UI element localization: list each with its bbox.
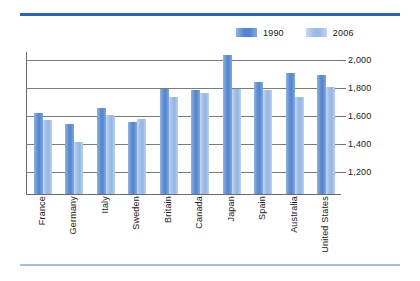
y-axis-tick-label: 1,200 [348, 167, 372, 177]
y-axis-tick-label: 1,600 [348, 111, 372, 121]
y-axis-tick [341, 88, 346, 89]
y-axis-tick-label: 2,000 [348, 55, 372, 65]
bar-2006 [263, 90, 272, 194]
bar-group [65, 52, 83, 194]
bar-group [223, 52, 241, 194]
bar-2006 [137, 119, 146, 194]
legend-label-1990: 1990 [263, 28, 284, 38]
category-label: Britain [163, 196, 173, 223]
bar-2006 [200, 93, 209, 194]
bottom-divider-rule [20, 264, 400, 266]
legend-item-2006: 2006 [306, 28, 354, 38]
legend-swatch-1990 [236, 28, 257, 37]
chart-figure: 1990 2006 1,2001,4001,6001,8002,000 Fran… [0, 0, 420, 281]
y-axis-tick-label: 1,400 [348, 139, 372, 149]
y-axis-tick [341, 60, 346, 61]
top-divider-rule [20, 13, 400, 16]
legend-label-2006: 2006 [333, 28, 354, 38]
bar-2006 [43, 120, 52, 194]
x-axis-category-labels: FranceGermanyItalySwedenBritainCanadaJap… [26, 196, 341, 266]
legend-item-1990: 1990 [236, 28, 284, 38]
bar-2006 [232, 89, 241, 194]
category-label: Italy [100, 196, 110, 214]
bar-group [160, 52, 178, 194]
y-axis-tick-label: 1,800 [348, 83, 372, 93]
bar-2006 [106, 115, 115, 194]
category-label: United States [320, 196, 330, 253]
bar-1990 [254, 82, 263, 194]
bar-1990 [65, 124, 74, 194]
bar-group [128, 52, 146, 194]
category-label: Australia [289, 196, 299, 233]
bar-1990 [286, 73, 295, 194]
y-axis-tick [341, 116, 346, 117]
bar-2006 [295, 97, 304, 194]
bar-1990 [223, 55, 232, 194]
chart-legend: 1990 2006 [236, 26, 354, 39]
bar-1990 [128, 122, 137, 194]
y-axis-tick [341, 144, 346, 145]
category-label: France [37, 196, 47, 225]
legend-swatch-2006 [306, 28, 327, 37]
bars-layer [27, 52, 341, 194]
category-label: Sweden [131, 196, 141, 230]
bar-group [34, 52, 52, 194]
bar-1990 [34, 113, 43, 194]
bar-1990 [160, 89, 169, 194]
bar-group [191, 52, 209, 194]
category-label: Canada [194, 196, 204, 229]
x-axis-line [26, 194, 341, 195]
bar-1990 [97, 108, 106, 194]
category-label: Germany [68, 196, 78, 234]
category-label: Spain [257, 196, 267, 220]
bar-group [97, 52, 115, 194]
bar-group [286, 52, 304, 194]
bar-1990 [191, 90, 200, 194]
plot-area [26, 52, 341, 195]
bar-2006 [326, 87, 335, 194]
bar-group [254, 52, 272, 194]
y-axis-tick [341, 172, 346, 173]
bar-2006 [74, 142, 83, 194]
bar-group [317, 52, 335, 194]
bar-2006 [169, 97, 178, 194]
category-label: Japan [226, 196, 236, 222]
bar-1990 [317, 75, 326, 194]
